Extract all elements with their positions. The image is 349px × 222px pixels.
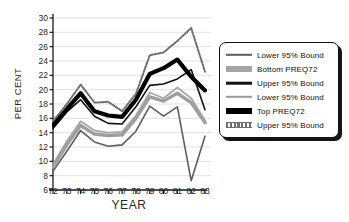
legend-item[interactable]: Bottom PREQ72 xyxy=(226,62,333,76)
series-line-bottom_lower_95 xyxy=(53,106,205,181)
legend-item-label: Upper 95% Bound xyxy=(257,121,324,130)
chart-legend: Lower 95% BoundBottom PREQ72Upper 95% Bo… xyxy=(219,42,339,138)
legend-item-label: Top PREQ72 xyxy=(257,107,305,116)
legend-item-label: Lower 95% Bound xyxy=(257,93,324,102)
legend-item-label: Bottom PREQ72 xyxy=(257,65,317,74)
legend-item-label: Lower 95% Bound xyxy=(257,51,324,60)
legend-line-swatch-icon xyxy=(226,119,252,131)
x-tick-label: 83 xyxy=(197,186,213,196)
x-axis-title: YEAR xyxy=(53,198,205,212)
legend-item[interactable]: Lower 95% Bound xyxy=(226,90,333,104)
legend-item[interactable]: Upper 95% Bound xyxy=(226,76,333,90)
legend-item[interactable]: Top PREQ72 xyxy=(226,104,333,118)
legend-line-swatch-icon xyxy=(226,77,252,89)
legend-item[interactable]: Lower 95% Bound xyxy=(226,48,333,62)
legend-line-swatch-icon xyxy=(226,63,252,75)
legend-item[interactable]: Upper 95% Bound xyxy=(226,118,333,132)
legend-line-swatch-icon xyxy=(226,91,252,103)
legend-line-swatch-icon xyxy=(226,49,252,61)
legend-item-label: Upper 95% Bound xyxy=(257,79,324,88)
legend-line-swatch-icon xyxy=(226,105,252,117)
chart-figure: PER CENT 302826242220181614121086 727374… xyxy=(0,0,349,222)
